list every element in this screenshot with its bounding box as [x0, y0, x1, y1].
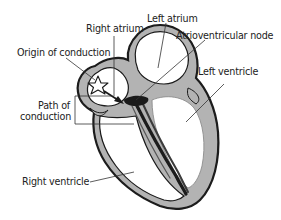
label-path-of-conduction-line2: conduction	[20, 111, 70, 122]
label-left-atrium: Left atrium	[147, 13, 198, 24]
label-path-of-conduction-line1: Path of	[20, 100, 70, 111]
label-atrioventricular-node: Atrioventricular node	[176, 30, 273, 41]
label-right-atrium: Right atrium	[86, 23, 144, 34]
label-left-ventricle: Left ventricle	[198, 66, 258, 77]
heart-conduction-diagram: Left atrium Right atrium Atrioventricula…	[0, 0, 281, 220]
label-origin-of-conduction: Origin of conduction	[17, 47, 110, 58]
label-right-ventricle: Right ventricle	[22, 176, 89, 187]
label-path-of-conduction: Path of conduction	[20, 100, 70, 122]
